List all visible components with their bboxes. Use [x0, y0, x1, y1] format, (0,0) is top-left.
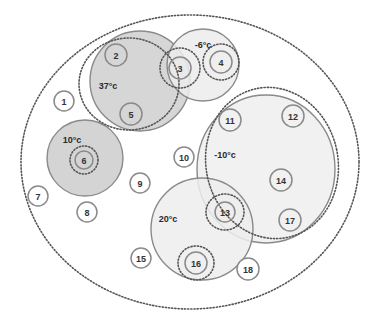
node-4[interactable]: 4	[210, 51, 232, 73]
node-5[interactable]: 5	[120, 103, 142, 125]
node-15[interactable]: 15	[131, 248, 151, 268]
node-4-label: 4	[218, 58, 223, 68]
node-9[interactable]: 9	[130, 173, 150, 193]
node-12[interactable]: 12	[282, 105, 304, 127]
node-12-label: 12	[288, 112, 298, 122]
zone-minus6-label: -6°c	[195, 40, 212, 50]
node-2[interactable]: 2	[105, 44, 127, 66]
node-17-label: 17	[285, 216, 295, 226]
node-14-label: 14	[276, 176, 286, 186]
zone-20-label: 20°c	[159, 214, 178, 224]
node-13-label: 13	[220, 208, 230, 218]
node-11-label: 11	[225, 116, 235, 126]
node-8[interactable]: 8	[77, 202, 97, 222]
node-5-label: 5	[128, 110, 133, 120]
node-6-label: 6	[81, 156, 86, 166]
node-3[interactable]: 3	[169, 57, 191, 79]
temperature-zone-diagram: 123456789101112131415161718 37°c-6°c10°c…	[0, 0, 374, 322]
node-18-label: 18	[243, 265, 253, 275]
node-7-label: 7	[35, 192, 40, 202]
node-15-label: 15	[136, 254, 146, 264]
node-11[interactable]: 11	[219, 109, 241, 131]
node-14[interactable]: 14	[270, 169, 292, 191]
node-16-label: 16	[191, 259, 201, 269]
node-8-label: 8	[84, 208, 89, 218]
node-1-label: 1	[61, 97, 66, 107]
node-10-label: 10	[179, 153, 189, 163]
node-10[interactable]: 10	[174, 147, 194, 167]
node-9-label: 9	[137, 179, 142, 189]
diagram-canvas: 123456789101112131415161718 37°c-6°c10°c…	[0, 0, 374, 322]
node-17[interactable]: 17	[279, 209, 301, 231]
node-7[interactable]: 7	[28, 186, 48, 206]
node-3-label: 3	[177, 64, 182, 74]
zone-37-label: 37°c	[99, 81, 118, 91]
node-6[interactable]: 6	[75, 151, 93, 169]
zone-minus10-label: -10°c	[214, 150, 236, 160]
node-1[interactable]: 1	[54, 91, 74, 111]
node-13[interactable]: 13	[215, 202, 235, 222]
zone-10-label: 10°c	[63, 135, 82, 145]
node-18[interactable]: 18	[237, 258, 259, 280]
node-2-label: 2	[113, 51, 118, 61]
node-16[interactable]: 16	[185, 252, 207, 274]
